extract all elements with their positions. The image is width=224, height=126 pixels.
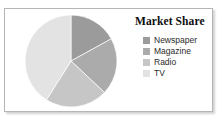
legend-label-magazine: Magazine [154, 46, 191, 57]
legend-item-tv[interactable]: TV [143, 68, 213, 79]
pie-slice-group [25, 15, 117, 107]
legend-label-tv: TV [154, 68, 165, 79]
legend-item-magazine[interactable]: Magazine [143, 46, 213, 57]
chart-card: Market Share Newspaper Magazine Radio TV [4, 8, 213, 112]
chart-info-panel: Market Share Newspaper Magazine Radio TV [129, 15, 213, 79]
legend-swatch-magazine [143, 48, 150, 55]
legend-swatch-radio [143, 59, 150, 66]
legend-item-radio[interactable]: Radio [143, 57, 213, 68]
chart-legend: Newspaper Magazine Radio TV [143, 35, 213, 79]
legend-label-newspaper: Newspaper [154, 35, 197, 46]
legend-label-radio: Radio [154, 57, 176, 68]
legend-swatch-tv [143, 70, 150, 77]
pie-chart-svg [24, 13, 118, 109]
legend-swatch-newspaper [143, 37, 150, 44]
chart-title: Market Share [135, 15, 213, 28]
legend-item-newspaper[interactable]: Newspaper [143, 35, 213, 46]
pie-chart [24, 13, 118, 109]
